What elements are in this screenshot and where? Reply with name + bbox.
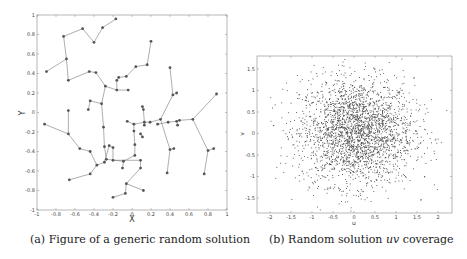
tree-node bbox=[89, 99, 92, 102]
y-tick-label: -1 bbox=[250, 173, 255, 179]
caption-b-prefix: (b) Random solution bbox=[269, 233, 386, 246]
y-tick-label: 0.8 bbox=[27, 31, 35, 37]
x-tick-label: -1 bbox=[35, 211, 40, 217]
y-tick-label: 1 bbox=[32, 12, 35, 18]
tree-node bbox=[95, 71, 98, 74]
y-tick-label: -0.6 bbox=[25, 168, 35, 174]
tree-node bbox=[88, 70, 91, 73]
tree-node bbox=[102, 126, 105, 129]
tree-node bbox=[117, 76, 120, 79]
y-tick-label: 1.5 bbox=[247, 66, 255, 72]
tree-node bbox=[143, 121, 146, 124]
tree-node bbox=[89, 150, 92, 153]
tree-node bbox=[62, 35, 65, 38]
tree-node bbox=[191, 118, 194, 121]
tree-node bbox=[139, 167, 142, 170]
plot-b-frame bbox=[257, 56, 452, 213]
x-tick-label: 1 bbox=[225, 211, 228, 217]
x-tick-label: -0.6 bbox=[70, 211, 80, 217]
tree-node bbox=[93, 41, 96, 44]
x-tick-label: -0.4 bbox=[89, 211, 99, 217]
tree-node bbox=[178, 119, 181, 122]
tree-node bbox=[156, 123, 159, 126]
x-tick-label: 1 bbox=[394, 214, 397, 220]
tree-node bbox=[141, 105, 144, 108]
tree-node bbox=[203, 173, 206, 176]
tree-node bbox=[65, 57, 68, 60]
tree-node bbox=[122, 160, 125, 163]
tree-node bbox=[67, 79, 70, 82]
caption-b-math: uv bbox=[386, 233, 399, 246]
plot-a-xlabel: X bbox=[129, 215, 135, 224]
tree-node bbox=[104, 85, 107, 88]
plot-b-points bbox=[270, 59, 447, 212]
x-tick-label: -0.5 bbox=[328, 214, 338, 220]
caption-a: (a) Figure of a generic random solution bbox=[30, 233, 250, 246]
x-tick-label: 1.5 bbox=[413, 214, 421, 220]
x-tick-label: -0.2 bbox=[108, 211, 118, 217]
y-tick-label: 0 bbox=[32, 109, 35, 115]
y-tick-label: -0.4 bbox=[25, 148, 35, 154]
plot-a-ticks: -1-0.8-0.6-0.4-0.200.20.40.60.81-1-0.8-0… bbox=[25, 12, 228, 217]
tree-node bbox=[124, 192, 127, 195]
tree-node bbox=[108, 144, 111, 147]
x-tick-label: 0.2 bbox=[147, 211, 155, 217]
plot-a-ylabel: Y bbox=[18, 110, 27, 116]
tree-node bbox=[125, 182, 128, 185]
tree-node bbox=[172, 147, 175, 150]
tree-node bbox=[169, 66, 172, 69]
tree-node bbox=[133, 154, 136, 157]
plot-a-edges bbox=[45, 19, 217, 197]
plot-a-network-tree: -1-0.8-0.6-0.4-0.200.20.40.60.81-1-0.8-0… bbox=[18, 12, 229, 224]
tree-node bbox=[95, 164, 98, 167]
tree-node bbox=[171, 94, 174, 97]
tree-node bbox=[112, 159, 115, 162]
x-tick-label: 0.8 bbox=[204, 211, 212, 217]
tree-node bbox=[150, 40, 153, 43]
plot-a-frame bbox=[37, 15, 227, 210]
tree-node bbox=[81, 27, 84, 30]
y-tick-label: 0.5 bbox=[247, 109, 255, 115]
figure: -1-0.8-0.6-0.4-0.200.20.40.60.81-1-0.8-0… bbox=[0, 0, 467, 259]
x-tick-label: 0.4 bbox=[166, 211, 174, 217]
tree-node bbox=[166, 172, 169, 175]
tree-node bbox=[207, 149, 210, 152]
plot-a-nodes bbox=[43, 18, 218, 199]
y-tick-label: -1.5 bbox=[245, 195, 255, 201]
x-tick-label: -2 bbox=[268, 214, 273, 220]
y-tick-label: -1 bbox=[30, 207, 35, 213]
tree-node bbox=[159, 118, 162, 121]
tree-node bbox=[45, 70, 48, 73]
x-tick-label: 0.6 bbox=[185, 211, 193, 217]
tree-node bbox=[175, 120, 178, 123]
x-tick-label: -1 bbox=[310, 214, 315, 220]
tree-node bbox=[175, 92, 178, 95]
caption-b-suffix: coverage bbox=[399, 233, 453, 246]
tree-node bbox=[215, 93, 218, 96]
tree-node bbox=[105, 158, 108, 161]
tree-node bbox=[103, 145, 106, 148]
tree-node bbox=[115, 79, 118, 82]
tree-node bbox=[169, 148, 172, 151]
plot-b-xlabel: u bbox=[352, 219, 356, 226]
tree-node bbox=[89, 173, 92, 176]
tree-node bbox=[133, 143, 136, 146]
caption-b: (b) Random solution uv coverage bbox=[269, 233, 454, 246]
tree-node bbox=[133, 123, 136, 126]
tree-node bbox=[167, 121, 170, 124]
tree-node bbox=[146, 63, 149, 66]
x-tick-label: -1.5 bbox=[286, 214, 296, 220]
x-tick-label: -0.8 bbox=[51, 211, 61, 217]
x-tick-label: 2 bbox=[436, 214, 439, 220]
y-tick-label: 0 bbox=[252, 130, 255, 136]
tree-node bbox=[126, 120, 129, 123]
tree-node bbox=[114, 18, 117, 21]
tree-node bbox=[125, 75, 128, 78]
tree-node bbox=[212, 147, 215, 150]
tree-node bbox=[139, 159, 142, 162]
tree-node bbox=[149, 121, 152, 124]
tree-node bbox=[141, 135, 144, 138]
tree-node bbox=[112, 146, 115, 149]
x-tick-label: 0.5 bbox=[371, 214, 379, 220]
tree-node bbox=[100, 102, 103, 105]
